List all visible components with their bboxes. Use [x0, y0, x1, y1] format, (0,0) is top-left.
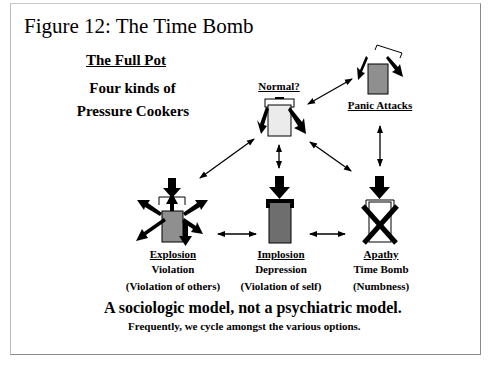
- panic-pot-icon: [357, 45, 403, 94]
- explosion-pot-icon: [136, 178, 208, 246]
- footer-main: A sociologic model, not a psychiatric mo…: [104, 299, 402, 317]
- implosion-pot-icon: [266, 176, 294, 243]
- panic-attacks-label: Panic Attacks: [348, 99, 412, 111]
- explosion-line3: (Violation of others): [126, 280, 220, 292]
- footer-note: Frequently, we cycle amongst the various…: [128, 320, 361, 332]
- apathy-pot-icon: [363, 176, 397, 243]
- implosion-line2: Depression: [255, 263, 307, 275]
- implosion-line3: (Violation of self): [241, 280, 322, 292]
- apathy-line3: (Numbness): [353, 280, 409, 292]
- implosion-label: Implosion: [257, 248, 304, 260]
- normal-pot-icon: [257, 97, 306, 136]
- explosion-label: Explosion: [150, 248, 196, 260]
- apathy-line2: Time Bomb: [353, 263, 408, 275]
- normal-label: Normal?: [258, 80, 300, 92]
- apathy-label: Apathy: [364, 248, 399, 260]
- explosion-line2: Violation: [152, 263, 195, 275]
- pressure-cooker-diagram: [0, 0, 494, 374]
